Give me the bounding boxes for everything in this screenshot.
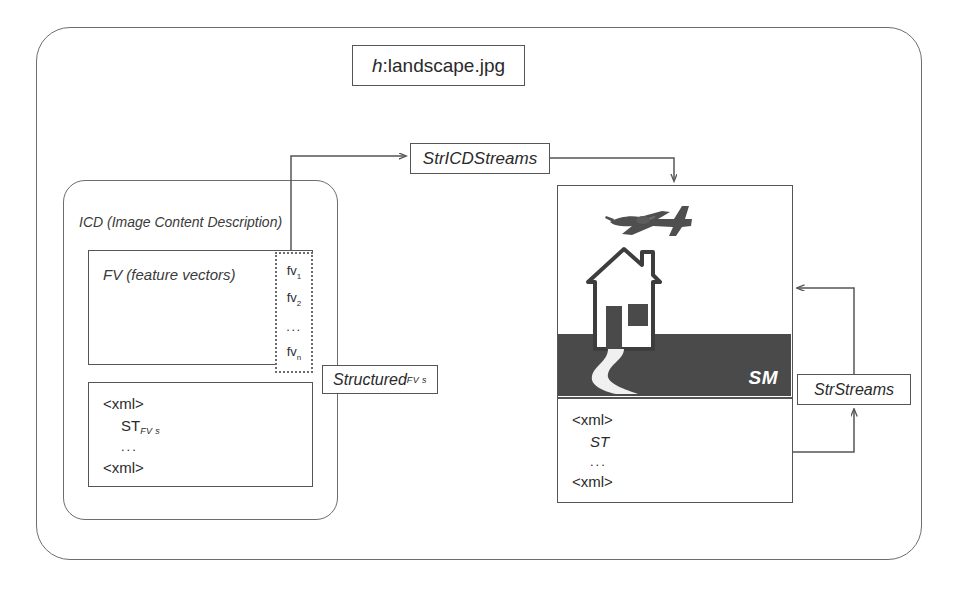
- fv-item-2: fv2: [287, 291, 302, 308]
- fv-box-label: FV (feature vectors): [103, 266, 236, 283]
- node-structured-subscript: FV s: [407, 375, 427, 385]
- icd-xml-content: STFV s: [103, 415, 312, 438]
- fv-item-2-subscript: 2: [297, 299, 301, 308]
- icd-container-label: ICD (Image Content Description): [79, 214, 282, 230]
- node-stricdstreams-label: StrICDStreams: [423, 149, 537, 169]
- house-door: [606, 306, 622, 349]
- sm-panel-caption: SM: [749, 367, 779, 389]
- sm-scene-svg: [558, 186, 791, 396]
- sm-xml-content: ST: [572, 431, 792, 453]
- icd-xml-content-subscript: FV s: [140, 426, 160, 436]
- icd-xml-open-tag: <xml>: [103, 395, 144, 412]
- sm-xml-open-tag: <xml>: [572, 411, 613, 428]
- sky-region: [558, 186, 791, 334]
- icd-xml-ellipsis: ...: [103, 438, 312, 457]
- node-structured-fvs: StructuredFV s: [322, 365, 438, 394]
- icd-xml-close-tag: <xml>: [103, 459, 144, 476]
- house-window: [628, 304, 648, 326]
- image-title-symbol: h: [372, 55, 383, 77]
- image-title-filename: landscape.jpg: [388, 55, 505, 77]
- fv-vector-list: fv1 fv2 ... fvn: [275, 252, 313, 373]
- fv-item-n-subscript: n: [297, 352, 301, 361]
- sm-xml-ellipsis: ...: [572, 453, 792, 472]
- fv-item-1: fv1: [287, 264, 302, 281]
- node-stricdstreams: StrICDStreams: [410, 143, 550, 174]
- diagram-canvas: h: landscape.jpg ICD (Image Content Desc…: [0, 0, 957, 600]
- node-structured-base: Structured: [333, 371, 407, 389]
- fv-list-ellipsis: ...: [286, 319, 301, 334]
- fv-item-1-subscript: 1: [297, 271, 301, 280]
- sm-xml-close-tag: <xml>: [572, 473, 613, 490]
- sm-image-panel: SM: [557, 185, 793, 398]
- fv-item-n: fvn: [287, 345, 302, 362]
- image-title-box: h: landscape.jpg: [352, 45, 525, 86]
- node-strstreams: StrStreams: [797, 374, 911, 405]
- icd-xml-box: <xml> STFV s ... <xml>: [88, 382, 313, 487]
- sm-xml-box: <xml> ST ... <xml>: [557, 398, 793, 503]
- node-strstreams-label: StrStreams: [814, 381, 894, 399]
